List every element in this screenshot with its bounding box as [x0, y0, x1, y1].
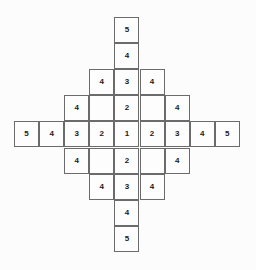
grid-cell: 2: [114, 148, 139, 174]
grid-cell: [140, 148, 165, 174]
grid-cell: 5: [215, 121, 240, 147]
grid-cell: [89, 95, 114, 121]
grid-cell: 2: [140, 121, 165, 147]
grid-cell: 4: [190, 121, 215, 147]
grid-cell: 2: [89, 121, 114, 147]
grid-cell: 5: [114, 17, 139, 43]
grid-cell: 4: [140, 69, 165, 95]
grid-cell: [89, 148, 114, 174]
grid-cell: 3: [114, 174, 139, 200]
grid-cell: 2: [114, 95, 139, 121]
grid-cell: 1: [114, 121, 139, 147]
grid-cell: 4: [114, 43, 139, 69]
grid-cell: 3: [114, 69, 139, 95]
grid-cell: 4: [165, 148, 190, 174]
grid-cell: 5: [14, 121, 39, 147]
grid-cell: 4: [140, 174, 165, 200]
grid-cell: [140, 95, 165, 121]
grid-cell: 4: [89, 174, 114, 200]
grid-cell: 5: [114, 226, 139, 252]
grid-cell: 4: [114, 200, 139, 226]
grid-cell: 3: [165, 121, 190, 147]
grid-cell: 4: [64, 148, 89, 174]
grid-cell: 3: [64, 121, 89, 147]
diamond-number-grid-figure: 5443442454321234542443445: [0, 0, 256, 270]
grid-cell: 4: [89, 69, 114, 95]
number-grid: 5443442454321234542443445: [14, 17, 240, 252]
grid-cell: 4: [39, 121, 64, 147]
grid-cell: 4: [64, 95, 89, 121]
grid-cell: 4: [165, 95, 190, 121]
